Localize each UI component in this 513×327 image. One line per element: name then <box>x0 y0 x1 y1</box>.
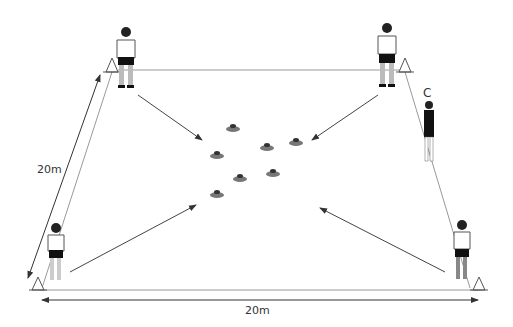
movement-arrows <box>70 95 445 272</box>
disc-cone-icon <box>233 174 247 182</box>
corner-cones <box>29 58 488 290</box>
side-length-label: 20m <box>37 163 62 176</box>
disc-cones <box>210 124 303 198</box>
drill-diagram <box>0 0 513 327</box>
cone-icon <box>470 277 488 290</box>
player-top-left <box>117 27 135 88</box>
disc-cone-icon <box>289 138 303 146</box>
player-bottom-left <box>48 223 64 280</box>
disc-cone-icon <box>226 124 240 132</box>
disc-cone-icon <box>260 143 274 151</box>
disc-cone-icon <box>266 169 280 177</box>
coach-label: C <box>423 86 431 100</box>
measure-arrows <box>28 75 478 300</box>
pitch-boundary <box>40 70 478 290</box>
side-width-label: 20m <box>245 304 270 317</box>
disc-cone-icon <box>210 190 224 198</box>
cone-icon <box>29 277 47 290</box>
disc-cone-icon <box>210 151 224 159</box>
player-bottom-right <box>454 220 470 279</box>
player-top-right <box>378 23 396 87</box>
